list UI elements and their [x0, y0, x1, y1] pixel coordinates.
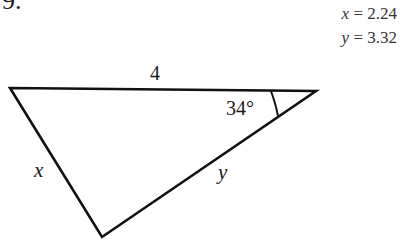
side-right-label: y: [218, 160, 227, 185]
triangle-diagram: [0, 0, 405, 242]
side-left-label: x: [34, 158, 43, 183]
side-top-label: 4: [150, 62, 160, 85]
angle-arc: [271, 91, 278, 116]
triangle-shape: [10, 88, 316, 237]
angle-label: 34°: [226, 97, 254, 120]
